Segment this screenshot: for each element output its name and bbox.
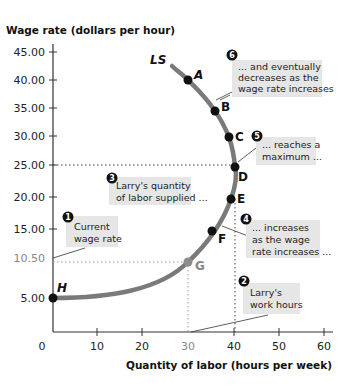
x-tick-labels: 0 10 20 30 40 50 60	[39, 340, 332, 353]
svg-text:A: A	[193, 68, 203, 82]
svg-text:H: H	[57, 281, 67, 295]
svg-text:maximum ...: maximum ...	[262, 151, 322, 162]
svg-text:... and eventually: ... and eventually	[238, 61, 321, 72]
svg-text:Current: Current	[74, 221, 110, 232]
svg-text:1: 1	[65, 213, 71, 222]
svg-text:10.50: 10.50	[14, 252, 46, 265]
svg-text:30: 30	[181, 340, 195, 353]
annotation-3: 3 Larry's quantity of labor supplied ...	[107, 173, 208, 206]
svg-text:0: 0	[39, 340, 46, 353]
svg-text:4: 4	[243, 215, 249, 224]
svg-text:45.00: 45.00	[14, 46, 46, 59]
svg-text:C: C	[235, 130, 244, 144]
svg-text:3: 3	[109, 174, 115, 183]
svg-text:60: 60	[317, 340, 331, 353]
labor-supply-chart: Wage rate (dollars per hour) 45.00 40.00…	[0, 0, 350, 388]
point-g	[184, 258, 193, 267]
svg-text:6: 6	[229, 51, 235, 60]
y-axis-title: Wage rate (dollars per hour)	[6, 24, 175, 36]
svg-text:10: 10	[90, 340, 104, 353]
svg-text:5.00: 5.00	[21, 292, 46, 305]
svg-text:... increases: ... increases	[252, 222, 309, 233]
curve-label: LS	[150, 53, 166, 67]
svg-text:25.00: 25.00	[14, 159, 46, 172]
svg-text:rate increases ...: rate increases ...	[252, 246, 331, 257]
annotation-5: 5 ... reaches a maximum ...	[238, 131, 322, 166]
svg-text:G: G	[195, 259, 205, 273]
point-f	[208, 227, 217, 236]
svg-text:40.00: 40.00	[14, 74, 46, 87]
svg-text:Larry's: Larry's	[250, 287, 282, 298]
svg-text:D: D	[238, 170, 248, 184]
svg-text:5: 5	[254, 132, 260, 141]
svg-text:20.00: 20.00	[14, 191, 46, 204]
annotation-1: 1 Current wage rate	[53, 212, 122, 259]
svg-text:work hours: work hours	[250, 299, 303, 310]
point-c	[225, 133, 234, 142]
annotation-4: 4 ... increases as the wage rate increas…	[222, 214, 331, 259]
svg-text:decreases as the: decreases as the	[238, 72, 319, 83]
svg-text:2: 2	[241, 277, 247, 286]
svg-text:wage rate increases: wage rate increases	[238, 83, 334, 94]
svg-text:B: B	[221, 100, 230, 114]
svg-text:of labor supplied ...: of labor supplied ...	[116, 192, 208, 203]
svg-text:40: 40	[227, 340, 241, 353]
svg-text:35.00: 35.00	[14, 102, 46, 115]
point-e	[227, 195, 236, 204]
svg-text:E: E	[237, 192, 245, 206]
svg-text:50: 50	[272, 340, 286, 353]
svg-text:15.00: 15.00	[14, 223, 46, 236]
annotation-2: 2 Larry's work hours	[191, 276, 303, 333]
svg-text:30.00: 30.00	[14, 130, 46, 143]
svg-text:wage rate: wage rate	[74, 233, 122, 244]
annotation-6: 6 ... and eventually decreases as the wa…	[216, 50, 334, 101]
point-b	[211, 107, 220, 116]
point-a	[184, 76, 193, 85]
y-tick-labels: 45.00 40.00 35.00 30.00 25.00 20.00 15.0…	[14, 46, 46, 305]
svg-text:20: 20	[135, 340, 149, 353]
svg-text:F: F	[218, 232, 226, 246]
svg-text:Larry's quantity: Larry's quantity	[116, 180, 191, 191]
svg-text:as the wage: as the wage	[252, 234, 310, 245]
x-axis-title: Quantity of labor (hours per week)	[126, 359, 332, 371]
svg-text:... reaches a: ... reaches a	[262, 139, 320, 150]
